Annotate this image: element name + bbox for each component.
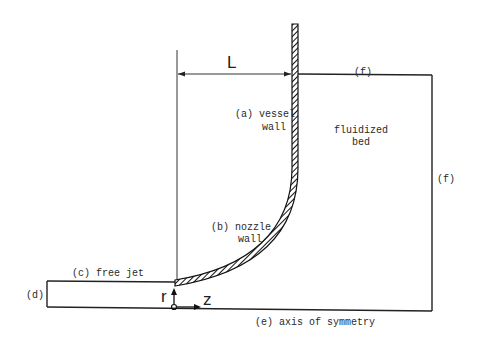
inlet-label: (d) <box>26 290 44 301</box>
coordinate-axes: r z <box>161 287 212 310</box>
free-jet-label: (c) free jet <box>72 268 144 279</box>
nozzle-wall-label-1: (b) nozzle <box>211 222 271 233</box>
nozzle-wall-label-2: wall <box>238 234 262 245</box>
vessel-wall-label-1: (a) vessel <box>235 109 295 120</box>
bed-label-1: fluidized <box>334 125 388 136</box>
nozzle-fluidized-bed-diagram: L r z (a) vessel wall fluidized bed (f) … <box>0 0 477 349</box>
right-boundary-label: (f) <box>437 174 455 185</box>
dimension-L-label: L <box>227 53 236 72</box>
axis-of-symmetry <box>47 307 432 311</box>
vessel-wall-label-2: wall <box>262 122 286 133</box>
z-axis-label: z <box>203 290 212 309</box>
bed-label-2: bed <box>352 137 370 148</box>
free-jet-boundary <box>47 281 175 282</box>
r-axis-label: r <box>161 287 167 306</box>
axis-label: (e) axis of symmetry <box>255 317 375 328</box>
vessel-nozzle-wall <box>175 24 298 286</box>
dimension-L: L <box>178 53 291 77</box>
top-boundary-label: (f) <box>354 67 372 78</box>
